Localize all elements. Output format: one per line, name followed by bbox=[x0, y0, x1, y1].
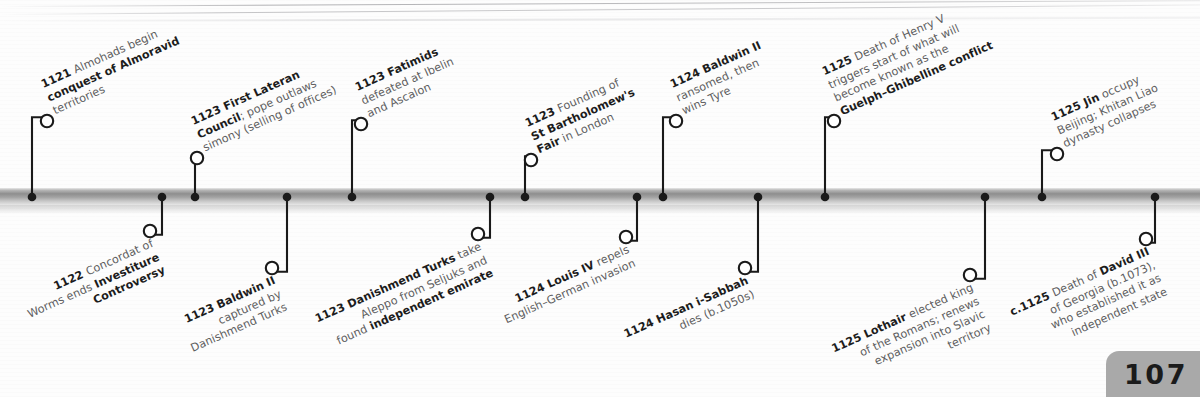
timeline-event-marker[interactable] bbox=[472, 228, 484, 240]
timeline-connector bbox=[521, 154, 538, 202]
timeline-connector-stem bbox=[745, 197, 758, 272]
timeline-axis-dot bbox=[283, 193, 292, 202]
timeline-connector bbox=[144, 193, 167, 238]
timeline-axis-dot bbox=[981, 193, 990, 202]
timeline-connector bbox=[1140, 193, 1159, 246]
page-number-tab: 107 bbox=[1106, 351, 1200, 397]
timeline-connector bbox=[191, 152, 204, 202]
timeline-connector bbox=[620, 193, 642, 244]
timeline-connector bbox=[964, 193, 990, 281]
timeline-axis-dot bbox=[486, 193, 495, 202]
timeline-connector bbox=[348, 118, 367, 202]
timeline-connector-stem bbox=[663, 117, 676, 197]
timeline-connector bbox=[821, 115, 841, 202]
timeline-axis-dot bbox=[28, 193, 37, 202]
timeline-connector bbox=[739, 193, 763, 274]
timeline-connector-stem bbox=[352, 120, 361, 197]
timeline-event-marker[interactable] bbox=[144, 225, 156, 237]
timeline-axis-dot bbox=[821, 193, 830, 202]
timeline-event-marker[interactable] bbox=[525, 154, 537, 166]
timeline-event-marker[interactable] bbox=[41, 115, 53, 127]
timeline-connector bbox=[1038, 148, 1064, 202]
timeline-axis-dot bbox=[1151, 193, 1160, 202]
timeline-event-marker[interactable] bbox=[1051, 148, 1063, 160]
timeline-event-marker[interactable] bbox=[964, 269, 976, 281]
timeline-event-marker[interactable] bbox=[828, 115, 840, 127]
timeline-axis-dot bbox=[191, 193, 200, 202]
timeline-axis-dot bbox=[1038, 193, 1047, 202]
timeline-event-marker[interactable] bbox=[1140, 233, 1152, 245]
timeline-event-marker[interactable] bbox=[191, 152, 203, 164]
timeline-axis-dot bbox=[659, 193, 668, 202]
timeline-axis-dot bbox=[633, 193, 642, 202]
timeline-axis-dot bbox=[158, 193, 167, 202]
timeline-connector bbox=[266, 193, 292, 274]
timeline-event-marker[interactable] bbox=[670, 115, 682, 127]
timeline-connector-stem bbox=[32, 117, 47, 197]
timeline-event-marker[interactable] bbox=[355, 118, 367, 130]
timeline-axis-dot bbox=[348, 193, 357, 202]
timeline-connector-stem bbox=[970, 197, 985, 279]
timeline-event-marker[interactable] bbox=[266, 262, 278, 274]
timeline-event-marker[interactable] bbox=[739, 262, 751, 274]
timeline-connector-stem bbox=[272, 197, 287, 272]
timeline-event-marker[interactable] bbox=[620, 231, 632, 243]
timeline-axis-dot bbox=[754, 193, 763, 202]
timeline-connector bbox=[28, 115, 53, 202]
timeline-connector bbox=[472, 193, 495, 241]
timeline-connector bbox=[659, 115, 683, 202]
timeline-connector-stem bbox=[825, 117, 834, 197]
timeline-axis-dot bbox=[521, 193, 530, 202]
page-number: 107 bbox=[1118, 359, 1188, 390]
timeline-page: 1121 Almohads beginconquest of Almoravid… bbox=[0, 0, 1200, 397]
